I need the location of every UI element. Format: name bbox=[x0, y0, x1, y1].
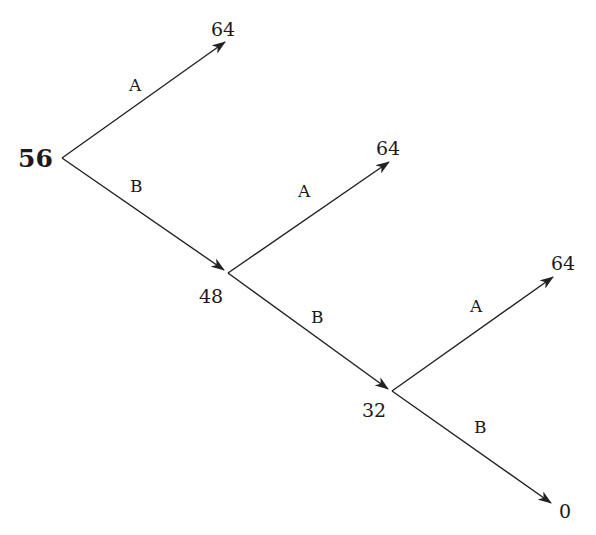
edge-root-B bbox=[62, 158, 224, 270]
leaf-value: 64 bbox=[376, 139, 400, 158]
leaf-value: 0 bbox=[559, 502, 571, 521]
decision-node-value: 32 bbox=[362, 401, 386, 420]
edge-48-A bbox=[228, 162, 389, 273]
edge-32-A bbox=[392, 277, 553, 391]
edge-label: B bbox=[474, 419, 487, 436]
decision-node-value: 48 bbox=[199, 287, 223, 306]
edge-32-B bbox=[392, 391, 551, 503]
leaf-value: 64 bbox=[211, 20, 235, 39]
edge-label: A bbox=[470, 298, 482, 315]
decision-tree-diagram bbox=[0, 0, 596, 535]
edge-root-A bbox=[62, 42, 225, 158]
edge-label: A bbox=[298, 183, 310, 200]
root-node-value: 56 bbox=[18, 146, 53, 171]
leaf-value: 64 bbox=[551, 254, 575, 273]
edge-label: B bbox=[130, 178, 143, 195]
edge-label: B bbox=[311, 309, 324, 326]
edge-48-B bbox=[228, 273, 388, 389]
edge-label: A bbox=[129, 77, 141, 94]
